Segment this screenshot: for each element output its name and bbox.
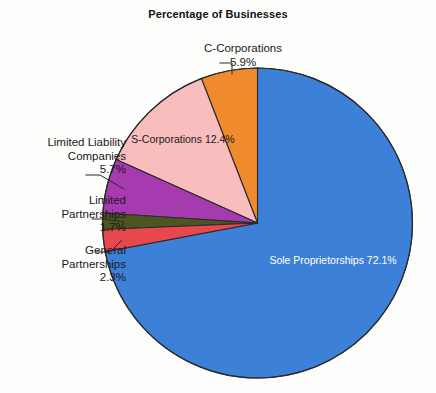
slice-label-sole-proprietorships: Sole Proprietorships 72.1%: [258, 254, 408, 267]
slice-label-limited-liability-companies-line2: Companies: [68, 150, 126, 162]
slice-label-limited-partnerships-pct: 1.7%: [4, 221, 126, 235]
slice-label-sole-proprietorships-name: Sole Proprietorships: [269, 254, 364, 266]
slice-label-limited-liability-companies-pct: 5.7%: [4, 163, 126, 177]
slice-label-s-corporations: S-Corporations 12.4%: [128, 133, 238, 146]
pie-slices: [103, 68, 413, 378]
slice-label-general-partnerships: General Partnerships 2.3%: [4, 244, 126, 285]
slice-label-c-corporations-pct: 5.9%: [168, 56, 318, 70]
slice-label-general-partnerships-pct: 2.3%: [4, 271, 126, 285]
slice-label-c-corporations-name: C-Corporations: [204, 42, 282, 54]
slice-label-sole-proprietorships-pct: 72.1%: [367, 254, 397, 266]
slice-label-s-corporations-pct: 12.4%: [205, 133, 235, 145]
slice-label-c-corporations: C-Corporations 5.9%: [168, 42, 318, 69]
slice-label-general-partnerships-line1: General: [85, 244, 126, 256]
slice-label-general-partnerships-line2: Partnerships: [61, 258, 126, 270]
slice-label-s-corporations-name: S-Corporations: [131, 133, 202, 145]
slice-label-limited-partnerships-line1: Limited: [89, 194, 126, 206]
slice-label-limited-liability-companies-line1: Limited Liability: [47, 136, 126, 148]
slice-label-limited-liability-companies: Limited Liability Companies 5.7%: [4, 136, 126, 177]
slice-label-limited-partnerships-line2: Partnerships: [61, 208, 126, 220]
pie-chart-figure: Percentage of Businesses C-Corporations …: [0, 0, 436, 393]
slice-label-limited-partnerships: Limited Partnerships 1.7%: [4, 194, 126, 235]
